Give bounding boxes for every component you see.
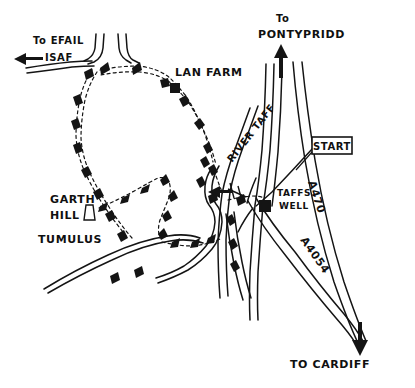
lan-farm-label: LAN FARM bbox=[175, 66, 243, 79]
arrow-to-pontypridd-icon bbox=[274, 44, 288, 78]
tumulus-label: TUMULUS bbox=[38, 233, 102, 246]
arrow-to-efail-isaf-icon bbox=[14, 53, 43, 65]
taffs-well-label-line2: WELL bbox=[279, 201, 309, 211]
lan-farm-marker bbox=[170, 83, 180, 93]
road-a4054 bbox=[248, 198, 363, 344]
to-cardiff-label: TO CARDIFF bbox=[290, 358, 370, 371]
to-efail-isaf-label-line2: ISAF bbox=[45, 52, 73, 63]
river-taff-main bbox=[250, 64, 275, 320]
taffs-well-label-line1: TAFFS bbox=[277, 188, 311, 198]
tumulus-marker bbox=[84, 205, 95, 220]
start-label: START bbox=[313, 141, 351, 152]
garth-hill-label-line1: GARTH bbox=[50, 193, 95, 206]
hand-drawn-map: START To EFAIL ISAF LAN FARM To PONTYPRI… bbox=[0, 0, 415, 388]
to-efail-isaf-label-line1: To EFAIL bbox=[33, 35, 84, 46]
to-pontypridd-label-line2: PONTYPRIDD bbox=[258, 28, 345, 41]
road-north-lane bbox=[84, 34, 104, 64]
taffs-well-marker bbox=[259, 200, 271, 212]
road-north-lane-east bbox=[118, 34, 139, 63]
to-pontypridd-label-line1: To bbox=[276, 13, 290, 24]
map-canvas: START To EFAIL ISAF LAN FARM To PONTYPRI… bbox=[0, 0, 415, 388]
trail-arrowheads bbox=[71, 62, 246, 284]
garth-hill-label-line2: HILL bbox=[50, 209, 80, 222]
a4054-label: A4054 bbox=[298, 234, 333, 276]
